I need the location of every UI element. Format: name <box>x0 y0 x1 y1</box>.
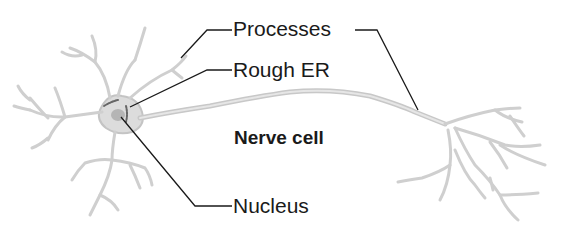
leader-processes-right <box>355 30 418 110</box>
neuron-illustration <box>14 28 545 220</box>
leader-nucleus <box>121 117 232 206</box>
label-rough-er: Rough ER <box>233 59 330 80</box>
leader-processes-left <box>181 30 232 58</box>
label-nucleus: Nucleus <box>233 195 309 216</box>
axon <box>140 91 445 124</box>
diagram-title: Nerve cell <box>234 128 324 147</box>
label-processes: Processes <box>233 18 331 39</box>
leader-lines <box>121 30 418 206</box>
axon-terminals <box>398 108 545 220</box>
